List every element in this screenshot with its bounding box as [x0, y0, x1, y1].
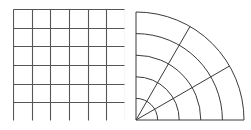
figure-root: [0, 0, 251, 130]
cartesian-grid-svg: [13, 9, 125, 121]
polar-grid-svg: [133, 9, 245, 121]
polar-grid-panel: [133, 9, 245, 121]
cartesian-grid-panel: [13, 9, 125, 121]
